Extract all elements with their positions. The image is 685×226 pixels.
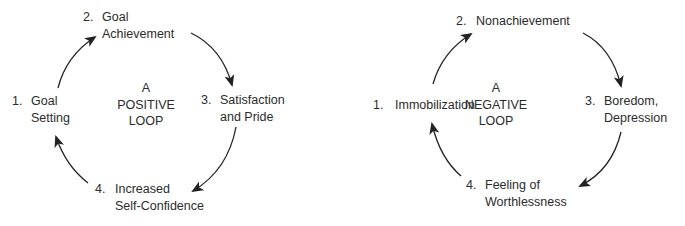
negative-loop-diagram: A NEGATIVE LOOP 1.Immobilization 2.Nonac… [342,0,685,226]
positive-loop-diagram: A POSITIVE LOOP 1.Goal Setting 2.Goal Ac… [0,0,342,226]
step-label-line: Feeling of [485,178,540,192]
negative-step-3: 3.Boredom, [585,93,658,109]
step-label-line: Satisfaction [220,93,285,107]
step-label-line: Boredom, [604,94,658,108]
title-line: LOOP [458,113,534,130]
positive-step-1: 1.Goal [12,93,57,109]
step-number: 1. [373,97,395,113]
step-label-line: Setting [31,111,70,125]
positive-step-3-line-2: and Pride [220,109,274,125]
step-label-line: Worthlessness [485,195,567,209]
positive-step-2: 2.Goal [83,9,128,25]
step-number: 2. [456,13,476,29]
step-number: 3. [585,93,604,109]
negative-step-4-line-2: Worthlessness [485,194,567,210]
positive-step-4-line-2: Self-Confidence [115,198,204,214]
step-label-line: Goal [31,94,57,108]
positive-step-3: 3.Satisfaction [201,92,285,108]
step-label-line: Increased [115,182,170,196]
positive-step-4: 4.Increased [95,181,170,197]
step-label-line: Immobilization [395,98,475,112]
title-line: A [458,80,534,97]
step-number: 4. [95,181,115,197]
step-label-line: Depression [604,111,667,125]
positive-step-1-line-2: Setting [31,110,70,126]
positive-loop-title: A POSITIVE LOOP [111,80,181,130]
step-number: 1. [12,93,31,109]
negative-step-1: 1.Immobilization [373,97,475,113]
step-label-line: Goal [102,10,128,24]
negative-step-3-line-2: Depression [604,110,667,126]
title-line: POSITIVE [111,97,181,114]
step-number: 3. [201,92,220,108]
positive-step-2-line-2: Achievement [102,26,174,42]
step-label-line: Self-Confidence [115,199,204,213]
step-label-line: and Pride [220,110,274,124]
negative-step-4: 4.Feeling of [466,177,540,193]
step-label-line: Achievement [102,27,174,41]
negative-step-2: 2.Nonachievement [456,13,570,29]
step-label-line: Nonachievement [476,14,570,28]
title-line: LOOP [111,113,181,130]
step-number: 2. [83,9,102,25]
step-number: 4. [466,177,485,193]
title-line: A [111,80,181,97]
